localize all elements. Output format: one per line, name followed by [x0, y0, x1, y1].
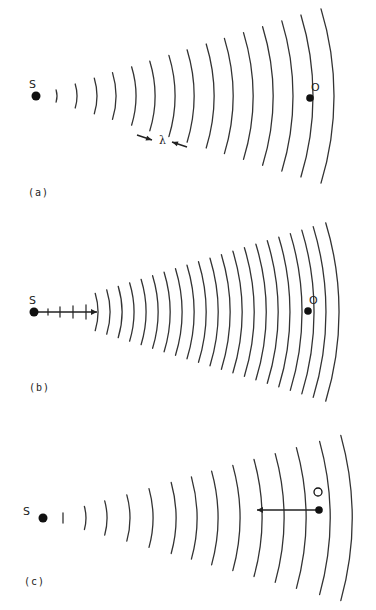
wavefront-arc — [326, 223, 339, 401]
source-dot — [30, 308, 39, 317]
wavefront-arc — [244, 248, 254, 377]
wavelength-arrow-left-head — [145, 136, 152, 141]
wavefront-arc — [75, 84, 77, 108]
panel-label: (c) — [24, 576, 45, 587]
wavefront-arc — [171, 483, 176, 554]
wavefront-arc — [56, 90, 57, 102]
wavefront-arc — [149, 489, 153, 548]
observer-dot — [306, 94, 314, 102]
wavefront-arc — [296, 448, 306, 589]
wavefront-arc — [127, 495, 130, 541]
observer-label: O — [309, 294, 318, 307]
panel-label: (a) — [28, 187, 49, 198]
wavefront-arc — [263, 27, 273, 166]
source-label: S — [29, 78, 36, 91]
wavefront-arc — [224, 38, 233, 153]
wavefront-arc — [113, 73, 116, 120]
velocity-arrow-head — [91, 309, 97, 315]
source-dot — [39, 514, 48, 523]
wavefront-arc — [221, 255, 230, 370]
wavefront-arc — [233, 251, 242, 373]
wavefront-arc — [206, 44, 214, 148]
panel-b: SO(b) — [29, 223, 339, 401]
panel-a: SOλ(a) — [28, 9, 334, 198]
wavefront-arc — [212, 471, 218, 565]
observer-open-circle — [314, 488, 322, 496]
wavefront-arc — [244, 33, 253, 160]
wavefront-arc — [187, 265, 194, 359]
wavefront-arc — [210, 258, 218, 366]
wavefront-arc — [150, 61, 155, 131]
wavefront-arc — [105, 501, 107, 535]
wavefront-arc — [320, 441, 330, 594]
wavelength-symbol: λ — [159, 134, 166, 147]
panel-c: S(c) — [23, 435, 352, 600]
wavefront-arc — [107, 290, 110, 334]
wavefront-arc — [313, 227, 326, 398]
wavefront-arc — [256, 244, 266, 380]
wavefront-arc — [176, 269, 182, 356]
wavefront-arc — [321, 9, 334, 183]
source-label: S — [29, 294, 36, 307]
wavefront-arc — [187, 50, 194, 142]
wavefront-arc — [118, 286, 122, 337]
source-dot — [32, 92, 41, 101]
wavefront-arc — [164, 272, 170, 352]
wavelength-arrow-right-head — [172, 141, 179, 146]
wavefront-arc — [267, 241, 278, 384]
wavefront-arc — [191, 477, 197, 559]
wavefront-arc — [141, 279, 146, 344]
wavefront-arc — [275, 454, 284, 583]
wavefront-arc — [341, 435, 352, 600]
observer-label: O — [311, 81, 320, 94]
wavefront-arc — [169, 55, 175, 136]
wavefront-arc — [84, 507, 86, 530]
velocity-arrow-head — [257, 507, 263, 513]
wavefront-arc — [290, 234, 302, 391]
doppler-figure: SOλ(a) SO(b) S(c) — [0, 0, 376, 610]
observer-dot — [315, 506, 323, 514]
wavefront-arc — [132, 67, 136, 125]
wavefront-arc — [254, 460, 262, 577]
wavefront-arc — [153, 276, 158, 349]
wavefront-arc — [233, 465, 240, 570]
observer-dot — [304, 307, 312, 315]
source-label: S — [23, 505, 30, 518]
panel-label: (b) — [29, 382, 50, 393]
wavefront-arc — [279, 237, 290, 387]
wavefront-arc — [199, 262, 207, 363]
wavefront-arc — [94, 78, 97, 114]
wavefront-arc — [130, 283, 134, 341]
wavefront-arc — [282, 21, 293, 171]
